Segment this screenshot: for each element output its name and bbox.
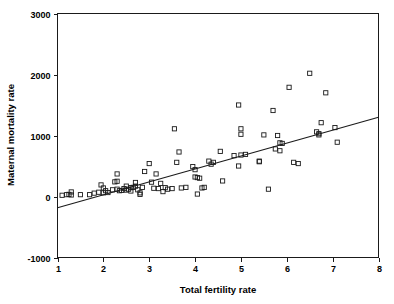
x-tick-label: 2 — [101, 264, 106, 274]
data-point-marker — [266, 187, 270, 191]
data-point-marker — [308, 71, 312, 75]
data-point-marker — [154, 172, 158, 176]
data-point-marker — [172, 127, 176, 131]
data-point-marker — [78, 193, 82, 197]
data-point-marker — [292, 160, 296, 164]
data-point-marker — [177, 150, 181, 154]
data-point-marker — [138, 192, 142, 196]
x-axis-title: Total fertility rate — [180, 284, 256, 295]
data-point-marker — [156, 186, 160, 190]
data-point-marker — [237, 164, 241, 168]
y-tick-label: 0 — [45, 193, 50, 203]
x-tick-label: 8 — [377, 264, 382, 274]
data-point-marker — [271, 108, 275, 112]
data-point-marker — [319, 121, 323, 125]
data-point-marker — [273, 147, 277, 151]
data-point-marker — [60, 193, 64, 197]
regression-line — [58, 117, 379, 208]
data-point-marker — [276, 133, 280, 137]
x-tick-label: 1 — [56, 264, 61, 274]
data-point-marker — [175, 160, 179, 164]
x-tick-label: 5 — [239, 264, 244, 274]
data-point-marker — [262, 133, 266, 137]
data-point-marker — [324, 91, 328, 95]
y-tick-label: 1000 — [30, 132, 50, 142]
y-tick-label: 2000 — [30, 71, 50, 81]
data-point-marker — [296, 161, 300, 165]
data-point-marker — [239, 127, 243, 131]
data-point-marker — [92, 191, 96, 195]
data-point-marker — [239, 132, 243, 136]
data-point-marker — [115, 172, 119, 176]
x-axis-tick-labels: 12345678 — [56, 264, 382, 274]
figure-container: -10000100020003000 12345678 Total fertil… — [0, 0, 394, 304]
data-point-marker — [195, 192, 199, 196]
data-points-layer — [60, 71, 339, 197]
data-point-marker — [218, 149, 222, 153]
x-tick-label: 7 — [331, 264, 336, 274]
data-point-marker — [179, 186, 183, 190]
axis-frame-path — [58, 14, 379, 258]
data-point-marker — [88, 193, 92, 197]
data-point-marker — [152, 186, 156, 190]
plot-frame — [58, 14, 379, 258]
data-point-marker — [184, 185, 188, 189]
data-point-marker — [278, 149, 282, 153]
y-tick-label: -1000 — [27, 254, 50, 264]
data-point-marker — [287, 85, 291, 89]
data-point-marker — [237, 103, 241, 107]
y-axis-title: Maternal mortality rate — [5, 84, 16, 186]
data-point-marker — [335, 140, 339, 144]
data-point-marker — [170, 186, 174, 190]
y-axis-tick-labels: -10000100020003000 — [27, 10, 50, 264]
data-point-marker — [97, 190, 101, 194]
data-point-marker — [159, 181, 163, 185]
scatter-plot: -10000100020003000 12345678 Total fertil… — [0, 0, 394, 304]
x-tick-label: 3 — [147, 264, 152, 274]
regression-line-layer — [58, 117, 379, 208]
data-point-marker — [140, 185, 144, 189]
data-point-marker — [143, 169, 147, 173]
data-point-marker — [147, 161, 151, 165]
x-tick-label: 4 — [193, 264, 198, 274]
y-tick-label: 3000 — [30, 10, 50, 20]
x-tick-label: 6 — [285, 264, 290, 274]
data-point-marker — [110, 188, 114, 192]
data-point-marker — [220, 179, 224, 183]
